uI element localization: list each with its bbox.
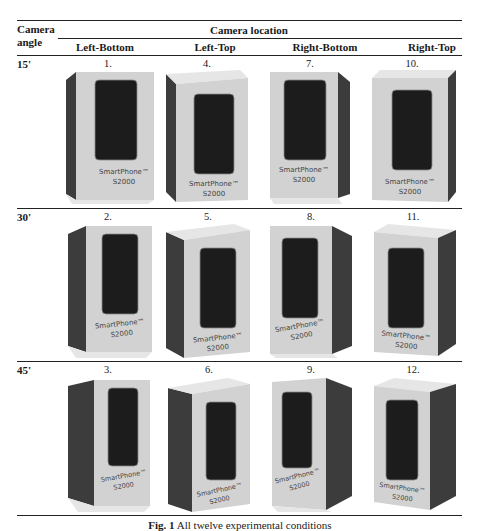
product-box-image-9: SmartPhone™ S2000 (270, 378, 356, 513)
cell-number: 10. (392, 58, 432, 69)
cell-number: 9. (291, 364, 331, 375)
row-separator-2 (17, 361, 462, 362)
column-header-rule (17, 55, 462, 56)
row-header-line-1: Camera (17, 23, 55, 36)
cell-number: 2. (88, 211, 128, 222)
figure-caption-text: All twelve experimental conditions (177, 519, 332, 531)
product-box-image-3: SmartPhone™ S2000 (66, 378, 156, 513)
cell-number: 5. (188, 211, 228, 222)
cell-number: 4. (187, 58, 227, 69)
row-separator-1 (17, 208, 462, 209)
product-box-image-1: SmartPhone™ S2000 (62, 70, 162, 205)
product-box-image-6: SmartPhone™ S2000 (166, 378, 252, 513)
cell-number: 8. (291, 211, 331, 222)
svg-text:SmartPhone™: SmartPhone™ (385, 178, 435, 186)
figure-caption: Fig. 1 All twelve experimental condition… (0, 519, 480, 531)
svg-text:S2000: S2000 (203, 190, 225, 198)
svg-text:SmartPhone™: SmartPhone™ (189, 180, 239, 188)
product-box-image-7: SmartPhone™ S2000 (268, 70, 353, 205)
svg-text:SmartPhone™: SmartPhone™ (279, 166, 329, 174)
column-header-left-bottom: Left-Bottom (55, 41, 155, 53)
cell-number: 7. (290, 58, 330, 69)
svg-text:S2000: S2000 (399, 188, 421, 196)
product-box-image-11: SmartPhone™ S2000 (372, 224, 460, 359)
column-header-right-top: Right-Top (382, 41, 480, 53)
angle-label-15: 15' (17, 58, 31, 70)
svg-text:S2000: S2000 (293, 176, 315, 184)
product-box-image-4: SmartPhone™ S2000 (164, 70, 249, 205)
cell-number: 6. (189, 364, 229, 375)
row-header-line-2: angle (17, 36, 55, 49)
column-header-left-top: Left-Top (165, 41, 265, 53)
svg-text:S2000: S2000 (113, 178, 135, 186)
table-top-rule (17, 20, 462, 21)
row-header: Camera angle (17, 23, 55, 49)
column-header-right-bottom: Right-Bottom (275, 41, 375, 53)
product-box-image-5: SmartPhone™ S2000 (164, 224, 252, 359)
product-box-image-8: SmartPhone™ S2000 (268, 224, 356, 359)
group-header: Camera location (210, 24, 288, 36)
product-box-image-10: SmartPhone™ S2000 (370, 70, 460, 205)
cell-number: 12. (393, 364, 433, 375)
group-header-rule (58, 38, 462, 39)
figure-caption-label: Fig. 1 (148, 519, 174, 531)
product-box-image-2: SmartPhone™ S2000 (64, 224, 159, 359)
angle-label-45: 45' (17, 364, 31, 376)
product-box-image-12: SmartPhone™ S2000 (372, 378, 460, 513)
angle-label-30: 30' (17, 211, 31, 223)
svg-text:SmartPhone™: SmartPhone™ (99, 168, 149, 176)
table-bottom-rule (17, 515, 462, 516)
cell-number: 3. (88, 364, 128, 375)
cell-number: 1. (88, 58, 128, 69)
cell-number: 11. (393, 211, 433, 222)
